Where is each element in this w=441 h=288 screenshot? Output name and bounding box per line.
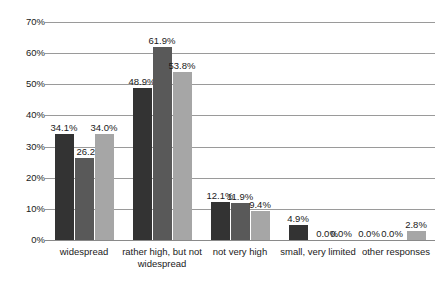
bar-value-label: 53.8% [169,61,196,71]
gridline [45,240,435,241]
bar[interactable] [55,134,74,240]
bar-slot: 0.0% [387,22,406,240]
bar-group-bars: 34.1%26.2%34.0% [55,22,114,240]
bar-value-label: 61.9% [149,36,176,46]
bar-value-label: 9.4% [249,200,271,210]
bar-value-label: 34.1% [51,123,78,133]
bar-value-label: 0.0% [381,229,403,239]
bar-group-bars: 12.1%11.9%9.4% [211,22,270,240]
bar-group-bars: 48.9%61.9%53.8% [133,22,192,240]
bar-slot: 11.9% [231,22,250,240]
y-axis-tick-label: 20% [7,173,45,183]
bar[interactable] [231,203,250,240]
bar-slot: 4.9% [289,22,308,240]
y-axis-tick-label: 70% [7,17,45,27]
bar-slot: 48.9% [133,22,152,240]
bar-slot: 34.0% [95,22,114,240]
bar-slot: 53.8% [173,22,192,240]
bar-value-label: 34.0% [91,123,118,133]
bar[interactable] [251,211,270,240]
bar[interactable] [133,88,152,240]
bar[interactable] [75,158,94,240]
bar-group: 0.0%0.0%2.8% [357,22,435,240]
y-axis-tick-label: 0% [7,235,45,245]
bar-value-label: 0.0% [330,229,352,239]
bar-value-label: 4.9% [287,214,309,224]
y-axis-tick-label: 30% [7,142,45,152]
bar-slot: 0.0% [309,22,328,240]
bar-group: 34.1%26.2%34.0% [45,22,123,240]
y-axis-tick-label: 10% [7,204,45,214]
x-axis-category-label: other responses [349,246,441,258]
y-axis-tick-label: 40% [7,111,45,121]
bar-slot: 34.1% [55,22,74,240]
bar-chart: 0%10%20%30%40%50%60%70% 34.1%26.2%34.0%4… [0,0,441,288]
bar[interactable] [407,231,426,240]
bar[interactable] [153,47,172,240]
bar[interactable] [95,134,114,240]
bar-slot: 0.0% [367,22,386,240]
bar-group: 4.9%0.0%0.0% [279,22,357,240]
bar-group: 12.1%11.9%9.4% [201,22,279,240]
plot-area: 34.1%26.2%34.0%48.9%61.9%53.8%12.1%11.9%… [45,22,435,240]
bar[interactable] [289,225,308,240]
bar-slot: 0.0% [329,22,348,240]
bar-slot: 2.8% [407,22,426,240]
bar-group-bars: 0.0%0.0%2.8% [367,22,426,240]
bar[interactable] [211,202,230,240]
bar[interactable] [173,72,192,240]
y-axis-tick-label: 50% [7,80,45,90]
bar-value-label: 0.0% [358,229,380,239]
bar-group-bars: 4.9%0.0%0.0% [289,22,348,240]
bar-value-label: 48.9% [129,77,156,87]
bar-slot: 9.4% [251,22,270,240]
bar-slot: 61.9% [153,22,172,240]
bar-value-label: 2.8% [405,220,427,230]
y-axis-tick-label: 60% [7,48,45,58]
bar-slot: 12.1% [211,22,230,240]
bar-group: 48.9%61.9%53.8% [123,22,201,240]
